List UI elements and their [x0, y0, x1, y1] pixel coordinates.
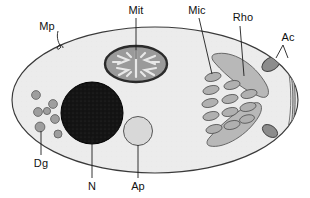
nucleus	[61, 82, 123, 144]
dense-granule	[49, 100, 58, 109]
label-dg: Dg	[34, 157, 48, 169]
label-mic: Mic	[188, 4, 206, 16]
label-ac: Ac	[281, 31, 294, 43]
label-mp: Mp	[39, 20, 54, 32]
label-mit: Mit	[129, 4, 144, 16]
label-n: N	[88, 180, 96, 192]
dense-granule	[32, 91, 41, 100]
nucleus-shape	[61, 82, 123, 144]
dense-granule	[35, 122, 45, 132]
dense-granule	[54, 130, 62, 138]
leader-ac-a	[276, 45, 283, 58]
apicoplast	[124, 117, 153, 146]
dense-granule	[34, 108, 43, 117]
dense-granule	[43, 107, 50, 114]
label-ap: Ap	[131, 180, 145, 192]
leader-ac-b	[283, 45, 288, 58]
apicoplast-shape	[124, 117, 153, 146]
cell-diagram: Mp Mit Mic Rho Ac Dg N Ap	[0, 0, 310, 198]
dense-granule	[51, 115, 60, 124]
figure-canvas: Mp Mit Mic Rho Ac Dg N Ap	[0, 0, 310, 198]
label-rho: Rho	[233, 11, 253, 23]
